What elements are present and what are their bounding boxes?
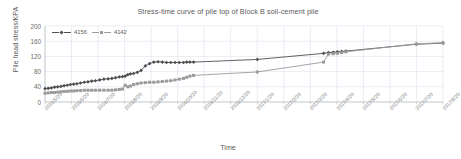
data-point-4156 [188,60,192,64]
data-point-4156 [135,71,139,75]
data-point-4142 [75,89,78,92]
data-point-4142 [124,84,127,87]
data-point-4142 [107,89,110,92]
data-point-4142 [185,76,188,79]
data-point-4156 [192,60,196,64]
data-point-4142 [121,88,124,91]
data-point-4142 [140,82,143,85]
data-point-4156 [117,75,121,79]
data-point-4156 [72,82,76,86]
data-point-4156 [102,77,106,81]
legend-item-4142[interactable]: 4142 [92,29,127,35]
data-point-4142 [322,61,325,64]
y-tick-label: 0 [19,99,41,106]
data-point-4156 [79,81,83,85]
legend-label: 4142 [114,29,127,35]
legend-line-icon [92,32,99,33]
y-tick-label: 80 [19,68,41,75]
series-line-4142 [45,43,443,94]
data-point-4142 [50,91,53,94]
data-point-4142 [336,52,339,55]
data-point-4156 [75,82,79,86]
diamond-marker-icon [59,30,63,34]
data-point-4156 [173,61,177,65]
data-point-4156 [160,60,164,64]
y-tick-label: 40 [19,83,41,90]
data-point-4142 [94,89,97,92]
data-point-4142 [157,80,160,83]
data-point-4142 [132,83,135,86]
data-point-4142 [102,89,105,92]
data-point-4142 [256,70,259,73]
data-point-4156 [182,61,186,65]
legend-item-4156[interactable]: 4156 [52,29,87,35]
chart-legend: 4156 4142 [52,29,127,35]
data-point-4156 [152,60,156,64]
data-point-4142 [148,81,151,84]
data-point-4142 [69,89,72,92]
data-point-4142 [79,89,82,92]
data-point-4142 [165,80,168,83]
data-point-4156 [185,60,189,64]
data-point-4142 [327,53,330,56]
data-point-4156 [110,77,114,81]
legend-line-icon [64,32,71,33]
data-point-4156 [255,58,259,62]
data-point-4142 [98,89,101,92]
data-point-4156 [132,72,136,76]
data-point-4142 [118,88,121,91]
data-point-4156 [94,79,98,83]
y-tick-label: 120 [19,53,41,60]
data-point-4156 [90,79,94,83]
data-point-4156 [98,78,102,82]
data-point-4156 [86,80,90,84]
data-point-4156 [53,85,57,89]
data-point-4142 [72,89,75,92]
data-point-4156 [43,87,47,91]
data-point-4142 [442,41,445,44]
data-point-4156 [106,77,110,81]
data-point-4142 [174,78,177,81]
data-point-4156 [177,61,181,65]
data-point-4156 [165,61,169,65]
data-point-4156 [156,60,160,64]
legend-label: 4156 [74,29,87,35]
data-point-4156 [129,72,133,76]
data-point-4156 [322,52,326,56]
data-point-4142 [340,51,343,54]
square-marker-icon [100,31,103,34]
data-point-4156 [169,61,173,65]
data-point-4142 [136,82,139,85]
data-point-4156 [56,85,60,89]
data-point-4142 [178,78,181,81]
data-point-4142 [44,92,47,95]
y-tick-label: 200 [19,23,41,30]
data-point-4142 [129,85,132,88]
data-point-4156 [114,76,118,80]
data-point-4156 [148,62,152,66]
data-point-4142 [332,52,335,55]
data-point-4142 [47,91,50,94]
data-point-4142 [114,88,117,91]
legend-line-icon [104,32,111,33]
data-point-4142 [126,85,129,88]
data-point-4142 [182,77,185,80]
data-point-4156 [82,80,86,84]
data-point-4142 [344,50,347,53]
data-point-4142 [63,90,66,93]
data-point-4142 [66,90,69,93]
data-point-4142 [169,79,172,82]
data-point-4142 [161,80,164,83]
data-point-4142 [144,81,147,84]
series-line-4156 [45,43,443,89]
data-point-4156 [59,85,63,89]
data-point-4142 [86,89,89,92]
data-point-4142 [90,89,93,92]
data-point-4142 [415,42,418,45]
data-point-4142 [192,74,195,77]
data-point-4142 [152,81,155,84]
data-point-4142 [188,75,191,78]
y-tick-label: 160 [19,38,41,45]
